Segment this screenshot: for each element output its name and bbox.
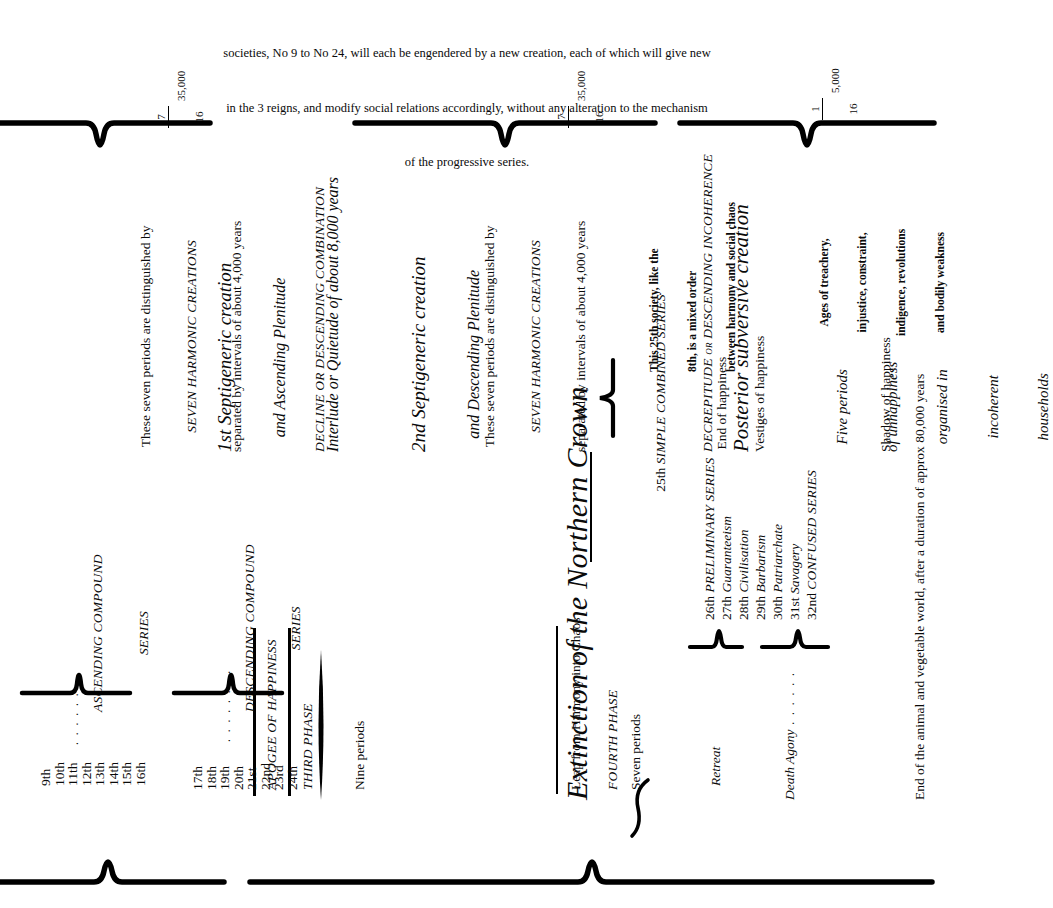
- scale-value-1: 35,000: [175, 71, 187, 101]
- final-line: End of the animal and vegetable world, a…: [912, 374, 927, 800]
- period-item: 15th: [119, 762, 134, 786]
- ages-line-2: injustice, constraint,: [856, 229, 869, 336]
- period-item: 9th: [38, 769, 53, 786]
- period-item: 23rd: [271, 765, 286, 790]
- scale-value-3: 5,000: [829, 68, 841, 93]
- subversive-period-label: Guaranteeism: [719, 516, 734, 593]
- first-heading-line-2: and Ascending Plenitude: [271, 263, 289, 452]
- subversive-period-number: 31st: [787, 594, 802, 620]
- bottom-brace-1: [0, 860, 226, 886]
- subversive-period-label: CONFUSED SERIES: [804, 470, 819, 590]
- first-note-line-1: These seven periods are distinguished by: [138, 221, 153, 452]
- second-periods-brace: [172, 672, 284, 696]
- top-brace-2: [355, 120, 655, 146]
- vestiges-label: Vestiges of happiness: [752, 336, 767, 452]
- death-agony-leader: . . . . . .: [784, 671, 796, 725]
- five-line-4: incoherent: [985, 362, 1002, 452]
- five-line-5: households: [1035, 362, 1052, 452]
- top-brace-3: [680, 120, 934, 146]
- second-heading-line-1: 2nd Septigeneric creation: [408, 256, 429, 452]
- death-agony-brace: [760, 628, 830, 650]
- period-item: 11th: [65, 763, 80, 787]
- subversive-title: Posterior subversive creation: [730, 204, 754, 452]
- period-item: 17th: [190, 766, 205, 790]
- period-item: 13th: [92, 762, 107, 786]
- subversive-period-number: 32nd: [804, 590, 819, 620]
- scale-value-2: 35,000: [575, 71, 587, 101]
- subversive-period-item: 29th Barbarism: [753, 535, 768, 620]
- interlude-subheading: DECLINE OR DESCENDING COMBINATION: [312, 187, 327, 452]
- subversive-period-item: 26th PRELIMINARY SERIES: [702, 458, 717, 620]
- ages-block: Ages of treachery, injustice, constraint…: [792, 229, 972, 336]
- retreat-label: Retreat: [708, 747, 723, 786]
- leap-rule: [556, 626, 558, 794]
- subversive-period-label: Barbarism: [753, 535, 768, 593]
- second-note-caps: SEVEN HARMONIC CREATIONS: [528, 221, 543, 452]
- decrepitude-label: DECREPITUDE or DESCENDING INCOHERENCE: [700, 154, 715, 452]
- header-line-1: societies, No 9 to No 24, will each be e…: [0, 44, 934, 62]
- second-note-line-1: These seven periods are distinguished by: [482, 221, 497, 452]
- subversive-period-number: 29th: [753, 593, 768, 620]
- subversive-period-item: 32nd CONFUSED SERIES: [804, 470, 819, 620]
- first-heading-line-1: 1st Septigeneric creation: [214, 263, 235, 452]
- fraction-3: 1 16: [786, 98, 884, 120]
- period-item: 16th: [133, 762, 148, 786]
- death-agony-text: Death Agony: [782, 729, 797, 800]
- ascending-series-line-2: SERIES: [136, 554, 151, 712]
- period-item: 19th: [217, 766, 232, 790]
- subversive-period-number: 30th: [770, 593, 785, 620]
- chaos-curve: [628, 778, 656, 840]
- subversive-period-label: Savagery: [787, 544, 802, 594]
- ages-line-1: Ages of treachery,: [818, 229, 831, 336]
- bottom-brace-2: [248, 860, 934, 886]
- scale-marker-3: 1 16 5,000: [750, 68, 920, 120]
- brace-note-line-2: 8th, is a mixed order: [686, 202, 699, 372]
- subversive-period-item: 28th Civilisation: [736, 530, 751, 620]
- top-brace-1: [0, 120, 210, 146]
- subversive-period-label: Patriarchate: [770, 524, 785, 593]
- death-agony-label: Death Agony . . . . . .: [782, 671, 797, 800]
- subversive-period-number: 28th: [736, 593, 751, 620]
- subversive-period-number: 26th: [702, 593, 717, 620]
- subversive-period-label: PRELIMINARY SERIES: [702, 458, 717, 593]
- series-25-number: 25th: [653, 468, 668, 492]
- first-periods-brace: [20, 672, 132, 696]
- series-25-brace: [594, 358, 616, 438]
- subversive-period-label: Civilisation: [736, 530, 751, 593]
- subversive-period-item: 30th Patriarchate: [770, 524, 785, 620]
- descending-series-line-2: SERIES: [288, 544, 303, 712]
- leap-label: Leap from Harmony into Chaos: [568, 618, 583, 790]
- interlude-heading: Interlude or Quietude of about 8,000 yea…: [288, 177, 378, 452]
- period-item: 21st: [244, 767, 259, 790]
- subversive-period-number: 27th: [719, 593, 734, 620]
- shadow-of-happiness-label: Shadow of happiness: [878, 337, 893, 452]
- subversive-period-item: 31st Savagery: [787, 544, 802, 620]
- fourth-phase-label: FOURTH PHASE: [605, 690, 620, 790]
- period-item: 24th: [285, 766, 300, 790]
- nine-periods-label: Nine periods: [352, 721, 367, 790]
- subversive-period-item: 27th Guaranteeism: [719, 516, 734, 620]
- five-line-1: Five periods: [834, 362, 851, 452]
- ages-line-4: and bodily weakness: [934, 229, 947, 336]
- header-line-3: of the progressive series.: [0, 153, 934, 171]
- series-25-rule: [590, 452, 592, 562]
- brace-note-line-1: This 25th society, like the: [648, 202, 661, 372]
- ages-line-3: indigence, revolutions: [895, 229, 908, 336]
- retreat-brace: [688, 628, 744, 650]
- five-line-3: organised in: [934, 362, 951, 452]
